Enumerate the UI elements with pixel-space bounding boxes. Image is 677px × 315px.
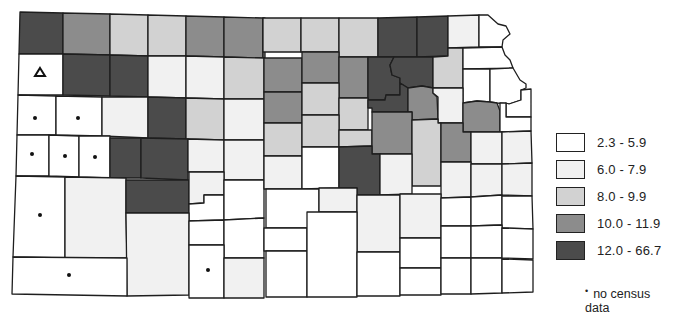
legend-item: 2.3 - 5.9 [556,129,677,156]
no-data-dot [206,268,210,272]
no-data-marker-icon: • [585,286,588,296]
county [188,139,224,172]
county [319,188,357,212]
county [502,259,533,293]
county [441,197,471,226]
county [302,147,339,189]
no-data-dot [33,116,37,120]
county [65,177,127,258]
county [441,258,471,294]
county [417,16,448,57]
county [471,195,502,226]
county [400,194,441,238]
county [471,258,502,294]
county [412,119,441,186]
no-data-dot [38,213,42,217]
county [471,164,502,197]
county [400,268,441,295]
county [301,18,339,52]
county [357,195,400,252]
county [224,180,264,220]
county [63,13,110,55]
county [18,54,63,95]
county [302,115,339,147]
county [224,17,263,58]
county [378,17,417,57]
county [339,18,378,57]
county [339,57,368,98]
county [19,12,63,54]
county [463,47,513,69]
county [224,99,264,140]
no-data-dot [63,154,67,158]
county [502,131,532,164]
no-data-dot [76,116,80,120]
legend-label: 8.0 - 9.9 [597,189,647,204]
county [264,123,302,156]
county [56,96,102,136]
legend: 2.3 - 5.9 6.0 - 7.9 8.0 - 9.9 10.0 - 11.… [556,129,677,264]
county [339,98,368,130]
county [264,58,302,92]
county [148,15,186,56]
legend-label: 12.0 - 66.7 [597,243,661,258]
county [372,112,412,154]
county [13,176,65,258]
no-data-dot [30,152,34,156]
legend-item: 8.0 - 9.9 [556,183,677,210]
county [441,226,471,258]
county [357,252,400,296]
legend-item: 12.0 - 66.7 [556,237,677,264]
county [148,56,186,98]
county [264,156,302,189]
county [263,18,301,52]
county [479,15,510,47]
county [224,57,264,99]
county [224,258,264,298]
legend-swatch [556,241,585,260]
county [110,55,148,97]
county [471,132,502,164]
county [148,97,186,139]
legend-swatch [556,133,585,152]
county [102,97,148,138]
legend-swatch [556,214,585,233]
county [400,238,441,268]
county [63,54,110,96]
county [17,95,56,135]
county [186,16,224,57]
county [189,220,224,245]
county [448,15,479,48]
county [264,228,307,251]
legend-label: 2.3 - 5.9 [597,135,647,150]
legend-item: 10.0 - 11.9 [556,210,677,237]
county [224,218,264,258]
county [110,138,141,178]
county [186,56,224,99]
county [502,228,533,259]
county [441,162,471,198]
county [110,14,148,56]
legend-label: 10.0 - 11.9 [597,216,660,231]
legend-swatch [556,187,585,206]
county [189,245,224,298]
county [471,225,502,258]
county [266,251,307,297]
no-data-note: •no census data [585,286,677,315]
county [302,83,339,115]
county [302,52,339,83]
county [502,163,532,196]
county [463,101,500,132]
county [186,98,224,140]
legend-item: 6.0 - 7.9 [556,156,677,183]
county [502,196,533,229]
county [380,154,412,195]
county [463,69,490,103]
county [339,130,372,147]
county [126,213,189,296]
no-data-dot [93,155,97,159]
no-data-dot [67,273,71,277]
county [307,212,357,297]
legend-swatch [556,160,585,179]
county [126,180,189,213]
